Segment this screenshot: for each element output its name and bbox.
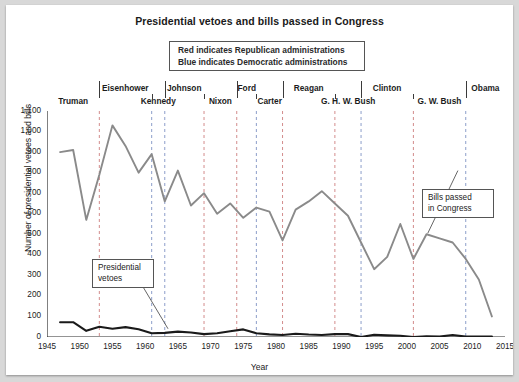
administration-label-g-w-bush: G. W. Bush (418, 96, 462, 106)
legend-item-republican: Red indicates Republican administrations (178, 45, 364, 57)
x-tick-label: 2000 (391, 342, 423, 351)
y-tick-label: 1,100 (6, 106, 41, 115)
y-tick-label: 800 (6, 167, 41, 176)
administration-divider-stem (256, 94, 257, 99)
administration-label-kennedy: Kennedy (141, 96, 176, 106)
annotation-line-1: Bills passed (428, 193, 472, 202)
administration-label-eisenhower: Eisenhower (102, 83, 149, 93)
x-tick-label: 1985 (293, 342, 325, 351)
y-tick-label: 100 (6, 311, 41, 320)
administration-divider-stem (204, 94, 205, 99)
annotation-presidential-vetoes: Presidential vetoes (92, 259, 154, 288)
administration-divider-stem (99, 81, 100, 98)
y-tick-label: 700 (6, 188, 41, 197)
y-tick-label: 200 (6, 290, 41, 299)
administration-divider-stem (165, 81, 166, 98)
chart-legend: Red indicates Republican administrations… (169, 41, 365, 71)
x-tick-label: 1945 (31, 342, 63, 351)
administration-divider-stem (152, 94, 153, 99)
x-tick-label: 2005 (424, 342, 456, 351)
y-tick-label: 400 (6, 249, 41, 258)
x-tick-label: 1995 (358, 342, 390, 351)
administration-divider-stem (283, 81, 284, 98)
chart-title: Presidential vetoes and bills passed in … (6, 15, 513, 27)
annotation-bills-passed: Bills passed in Congress (422, 189, 494, 218)
y-tick-label: 0 (6, 332, 41, 341)
plot-area (47, 111, 505, 337)
x-tick-label: 1955 (96, 342, 128, 351)
annotation-line-2: in Congress (428, 204, 472, 213)
x-tick-label: 1990 (325, 342, 357, 351)
x-tick-label: 1980 (260, 342, 292, 351)
administration-divider-stem (413, 94, 414, 99)
administration-label-johnson: Johnson (167, 83, 202, 93)
administration-label-nixon: Nixon (209, 96, 232, 106)
administration-label-truman: Truman (58, 96, 88, 106)
administration-label-clinton: Clinton (373, 83, 402, 93)
y-tick-label: 1,000 (6, 126, 41, 135)
administration-divider-stem (335, 94, 336, 99)
x-tick-label: 2015 (489, 342, 513, 351)
annotation-line-2: vetoes (98, 274, 122, 283)
series-presidential-vetoes (60, 322, 492, 337)
administration-label-ford: Ford (238, 83, 256, 93)
x-tick-label: 1965 (162, 342, 194, 351)
x-tick-label: 2010 (456, 342, 488, 351)
administration-divider-stem (237, 81, 238, 98)
administration-label-g-h-w-bush: G. H. W. Bush (321, 96, 375, 106)
x-tick-label: 1970 (195, 342, 227, 351)
chart-canvas (47, 111, 505, 337)
administration-divider-stem (466, 81, 467, 98)
administration-divider-stem (361, 81, 362, 98)
x-tick-label: 1950 (64, 342, 96, 351)
legend-item-democratic: Blue indicates Democratic administration… (178, 57, 364, 69)
x-tick-label: 1975 (227, 342, 259, 351)
x-axis-label: Year (6, 362, 513, 372)
y-tick-label: 500 (6, 229, 41, 238)
administration-label-carter: Carter (257, 96, 281, 106)
y-tick-label: 900 (6, 147, 41, 156)
administration-label-reagan: Reagan (294, 83, 324, 93)
annotation-line-1: Presidential (98, 263, 141, 272)
y-tick-label: 300 (6, 270, 41, 279)
x-tick-label: 1960 (129, 342, 161, 351)
y-tick-label: 600 (6, 208, 41, 217)
chart-page: Presidential vetoes and bills passed in … (6, 5, 513, 375)
administration-label-obama: Obama (471, 83, 499, 93)
